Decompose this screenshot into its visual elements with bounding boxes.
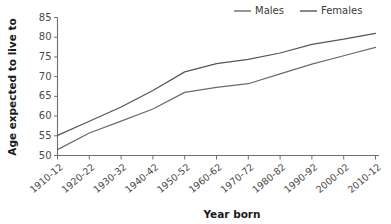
- life-expectancy-line-chart: Age expected to live to Year born 505560…: [0, 0, 391, 224]
- series-line-males: [58, 47, 376, 149]
- y-tick-label: 70: [39, 71, 52, 82]
- legend-label-males: Males: [255, 5, 284, 16]
- x-tick-label: 2000-02: [314, 161, 351, 195]
- legend-label-females: Females: [321, 5, 362, 16]
- x-tick-label: 1960-62: [186, 161, 223, 195]
- x-tick-label: 1940-42: [123, 161, 160, 195]
- x-tick-label: 1930-32: [91, 161, 128, 195]
- y-tick-label: 80: [39, 31, 52, 42]
- y-tick-label: 75: [39, 51, 52, 62]
- y-tick-label: 60: [39, 110, 52, 121]
- y-axis-tick-labels: 5055606570758085: [39, 12, 52, 161]
- x-tick-label: 1910-12: [27, 161, 64, 195]
- x-tick-label: 2010-12: [345, 161, 382, 195]
- series-line-females: [58, 33, 376, 135]
- x-axis-tick-labels: 1910-121920-221930-321940-421950-521960-…: [27, 161, 382, 195]
- x-axis-title: Year born: [202, 208, 260, 220]
- x-tick-label: 1980-82: [250, 161, 287, 195]
- y-tick-label: 50: [39, 150, 52, 161]
- x-tick-label: 1990-92: [282, 161, 319, 195]
- chart-legend: MalesFemales: [234, 5, 362, 16]
- chart-canvas: Age expected to live to Year born 505560…: [0, 0, 391, 224]
- x-tick-label: 1970-72: [218, 161, 255, 195]
- y-tick-label: 85: [39, 12, 52, 23]
- y-tick-label: 55: [39, 130, 52, 141]
- x-axis-ticks: [58, 156, 376, 160]
- y-tick-label: 65: [39, 90, 52, 101]
- x-tick-label: 1920-22: [59, 161, 96, 195]
- x-tick-label: 1950-52: [155, 161, 192, 195]
- data-series-group: [58, 33, 376, 149]
- y-axis-title: Age expected to live to: [6, 18, 18, 155]
